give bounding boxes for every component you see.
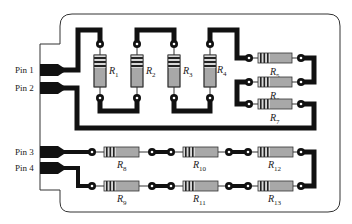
resistor-r2: R2: [131, 40, 156, 102]
resistor-r3: R3: [168, 40, 193, 102]
pin2-label: Pin 2: [15, 83, 34, 93]
resistor-r13: R13: [244, 181, 305, 207]
svg-text:R7: R7: [269, 112, 280, 126]
resistor-r12: R12: [244, 147, 305, 173]
resistor-r7: R7: [245, 99, 305, 126]
svg-text:R10: R10: [192, 159, 207, 173]
pin1-connector: [40, 64, 64, 76]
svg-text:R13: R13: [267, 193, 282, 207]
pin1-label: Pin 1: [15, 65, 34, 75]
svg-text:R4: R4: [216, 64, 227, 78]
svg-text:R3: R3: [182, 65, 193, 79]
svg-text:R2: R2: [145, 65, 156, 79]
resistor-r9: R9: [88, 181, 156, 207]
circuit-board-diagram: Pin 1 Pin 2 Pin 3 Pin 4 R1 R2: [0, 0, 352, 224]
svg-text:R1: R1: [108, 65, 119, 79]
resistor-r4: R4: [204, 40, 227, 102]
resistor-r10: R10: [167, 147, 233, 173]
svg-text:R11: R11: [192, 193, 206, 207]
svg-text:R8: R8: [116, 159, 127, 173]
pin4-connector: [40, 162, 64, 174]
pin3-connector: [40, 146, 64, 158]
pin2-connector: [40, 82, 64, 94]
resistor-r5: R5: [245, 53, 305, 80]
svg-text:R12: R12: [267, 159, 282, 173]
pin3-label: Pin 3: [15, 147, 34, 157]
resistor-r1: R1: [94, 40, 119, 102]
resistor-r8: R8: [88, 147, 156, 173]
svg-text:R9: R9: [116, 193, 127, 207]
pin-connectors: [40, 64, 64, 174]
resistor-r11: R11: [167, 181, 233, 207]
pin4-label: Pin 4: [15, 163, 34, 173]
